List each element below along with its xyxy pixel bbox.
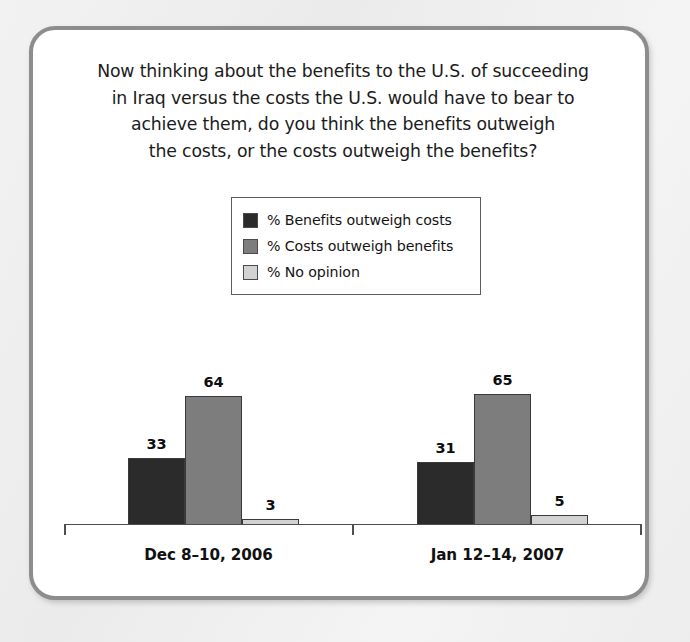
bar-value-costs-dec-2006: 64 (185, 374, 242, 390)
bar-rect-costs-dec-2006 (185, 396, 242, 525)
question-line-2: in Iraq versus the costs the U.S. would … (55, 85, 631, 112)
chart-card: Now thinking about the benefits to the U… (29, 26, 649, 600)
bar-rect-benefits-jan-2007 (417, 462, 474, 525)
legend-label-no-opinion: % No opinion (267, 264, 360, 280)
question-line-3: achieve them, do you think the benefits … (55, 111, 631, 138)
x-axis-label-jan-2007: Jan 12–14, 2007 (353, 546, 642, 564)
scanned-page-background: Now thinking about the benefits to the U… (0, 0, 690, 642)
legend-item-benefits: % Benefits outweigh costs (243, 207, 468, 233)
bar-value-no-opinion-dec-2006: 3 (242, 497, 299, 513)
chart-question-title: Now thinking about the benefits to the U… (55, 58, 631, 164)
chart-legend: % Benefits outweigh costs % Costs outwei… (231, 197, 481, 295)
bar-value-benefits-jan-2007: 31 (417, 440, 474, 456)
axis-tick-middle (352, 524, 354, 535)
x-axis-label-dec-2006: Dec 8–10, 2006 (64, 546, 353, 564)
legend-label-benefits: % Benefits outweigh costs (267, 212, 452, 228)
axis-tick-right (640, 524, 642, 535)
legend-item-costs: % Costs outweigh benefits (243, 233, 468, 259)
question-line-1: Now thinking about the benefits to the U… (55, 58, 631, 85)
legend-swatch-no-opinion (243, 265, 258, 280)
legend-item-no-opinion: % No opinion (243, 259, 468, 285)
bar-group-dec-2006: 33 64 3 (64, 327, 353, 525)
legend-swatch-costs (243, 239, 258, 254)
legend-swatch-benefits (243, 213, 258, 228)
bar-chart-plot-area: 33 64 3 31 65 (64, 327, 642, 525)
bar-value-costs-jan-2007: 65 (474, 372, 531, 388)
bar-value-benefits-dec-2006: 33 (128, 436, 185, 452)
bar-group-jan-2007: 31 65 5 (353, 327, 642, 525)
bar-rect-benefits-dec-2006 (128, 458, 185, 525)
bar-rect-costs-jan-2007 (474, 394, 531, 525)
legend-label-costs: % Costs outweigh benefits (267, 238, 453, 254)
x-axis-line (64, 524, 642, 525)
axis-tick-left (64, 524, 66, 535)
question-line-4: the costs, or the costs outweigh the ben… (55, 138, 631, 165)
bar-value-no-opinion-jan-2007: 5 (531, 493, 588, 509)
